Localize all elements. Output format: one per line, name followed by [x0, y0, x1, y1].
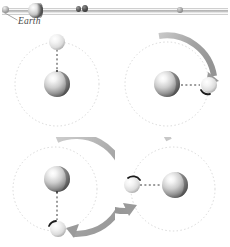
- orbit-panel-half: [0, 137, 115, 246]
- scale-mid-marker-a-icon: [76, 6, 81, 12]
- moon-sphere: [124, 177, 140, 193]
- orbit-panel-quarter: [115, 28, 230, 137]
- earth-label: Earth: [18, 16, 41, 26]
- earth-moon-distance-scale: Earth: [0, 0, 230, 28]
- orbit-panel-half-graphic: [0, 137, 115, 246]
- orbit-panel-quarter-graphic: [115, 28, 230, 137]
- moon-sphere: [49, 34, 65, 50]
- orbit-panel-three-quarter-graphic: [115, 137, 230, 246]
- orbit-panel-start-graphic: [0, 28, 115, 137]
- earth-axis-dot: [56, 70, 58, 72]
- rotation-arrow-arc: [159, 35, 214, 76]
- orbit-panel-three-quarter: [115, 137, 230, 246]
- moon-sphere: [50, 221, 66, 237]
- earth-label-leader-line: [3, 12, 19, 21]
- rotation-arrow-arc: [115, 137, 169, 211]
- moon-orbit-figure: Earth: [0, 0, 230, 247]
- scale-moon-sphere: [177, 7, 183, 13]
- earth-axis-dot: [56, 191, 58, 193]
- orbit-sequence-panels: [0, 28, 230, 247]
- orbit-panel-start: [0, 28, 115, 137]
- scale-mid-marker-b-icon: [82, 5, 88, 12]
- moon-sphere: [201, 77, 217, 93]
